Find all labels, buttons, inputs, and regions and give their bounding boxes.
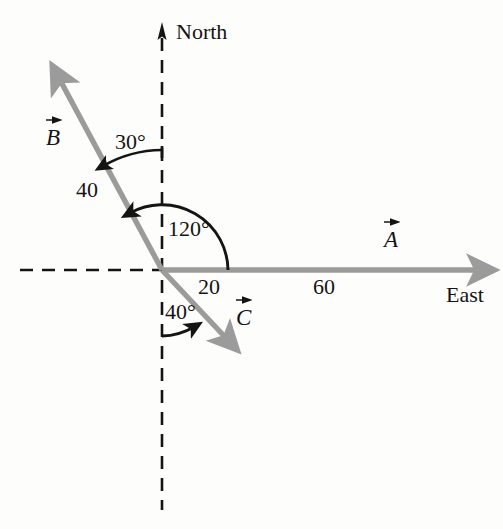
magnitude-label-b: 40 [76, 179, 98, 201]
vector-c-letter: C [236, 305, 251, 330]
vector-diagram-canvas [0, 0, 503, 529]
vector-c-label: C [236, 306, 251, 329]
magnitude-label-c: 20 [198, 276, 220, 298]
vector-b-arrow [60, 80, 162, 270]
north-arrow-tip [158, 22, 167, 40]
vector-diagram-figure: North East A B C 40 20 60 30° [0, 0, 503, 529]
vector-a-label: A [384, 228, 398, 251]
angle-label-40: 40° [165, 301, 196, 323]
vector-a-letter: A [384, 227, 398, 252]
vector-b-label: B [46, 126, 60, 149]
east-axis-label: East [446, 284, 484, 306]
north-axis-label: North [176, 21, 227, 43]
angle-label-120: 120° [168, 218, 210, 240]
magnitude-label-a: 60 [313, 276, 335, 298]
angle-arc-40 [162, 327, 194, 336]
vector-b-letter: B [46, 125, 60, 150]
angle-label-30: 30° [115, 131, 146, 153]
